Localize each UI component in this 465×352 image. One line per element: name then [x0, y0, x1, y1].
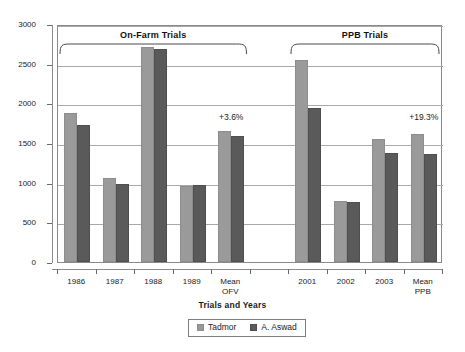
bar	[334, 201, 347, 262]
annotation-label: +3.6%	[191, 112, 271, 122]
y-axis-tick-label: 2500	[0, 61, 36, 69]
x-axis-tick-mark	[96, 269, 97, 274]
bar	[77, 125, 90, 262]
x-axis-tick-mark	[173, 269, 174, 274]
bar	[385, 153, 398, 262]
bar	[103, 178, 116, 262]
legend-label: A. Aswad	[261, 323, 296, 332]
group-title: On-Farm Trials	[59, 30, 248, 40]
legend-entry: Tadmor	[197, 323, 236, 332]
x-axis-tick-mark	[134, 269, 135, 274]
bar	[424, 154, 437, 262]
bar	[347, 202, 360, 262]
bar	[372, 139, 385, 262]
x-axis-tick-mark	[57, 269, 58, 274]
x-axis-tick-mark	[288, 269, 289, 274]
x-axis-tick-label: Mean OFV	[205, 277, 256, 297]
plot-floor	[52, 263, 442, 270]
group-bracket	[290, 42, 440, 54]
y-axis-tick-label: 500	[0, 219, 36, 227]
y-axis-tick-label: 1500	[0, 140, 36, 148]
plot-area: +3.6%+19.3%	[57, 25, 442, 263]
x-axis-tick-label: Mean PPB	[398, 277, 449, 297]
legend: TadmorA. Aswad	[188, 319, 306, 337]
legend-swatch-icon	[250, 324, 257, 331]
bar	[308, 108, 321, 262]
y-axis-tick-label: 2000	[0, 100, 36, 108]
bar	[64, 113, 77, 262]
x-axis-tick-mark	[365, 269, 366, 274]
bar	[193, 185, 206, 262]
bar	[154, 49, 167, 262]
group-title: PPB Trials	[290, 30, 440, 40]
x-axis-tick-mark	[404, 269, 405, 274]
bar	[295, 60, 308, 262]
gridline	[58, 66, 443, 67]
group-bracket	[59, 42, 248, 54]
y-axis-tick-label: 3000	[0, 21, 36, 29]
bar	[411, 134, 424, 262]
y-axis-tick-label: 1000	[0, 180, 36, 188]
chart-figure: kg/ha 050010001500200025003000 +3.6%+19.…	[0, 0, 465, 352]
bar	[141, 47, 154, 262]
x-axis-tick-mark	[442, 269, 443, 274]
annotation-label: +19.3%	[384, 112, 464, 122]
x-axis-tick-mark	[250, 269, 251, 274]
bar	[218, 131, 231, 262]
bar	[116, 184, 129, 262]
legend-entry: A. Aswad	[250, 323, 296, 332]
bar	[180, 186, 193, 262]
y-axis-tick-label: 0	[0, 259, 36, 267]
x-axis-title: Trials and Years	[0, 300, 465, 310]
x-axis-tick-mark	[211, 269, 212, 274]
legend-swatch-icon	[197, 324, 204, 331]
gridline	[58, 105, 443, 106]
x-axis-tick-mark	[327, 269, 328, 274]
gridline	[58, 26, 443, 27]
gridline	[58, 145, 443, 146]
bar	[231, 136, 244, 262]
legend-label: Tadmor	[208, 323, 236, 332]
